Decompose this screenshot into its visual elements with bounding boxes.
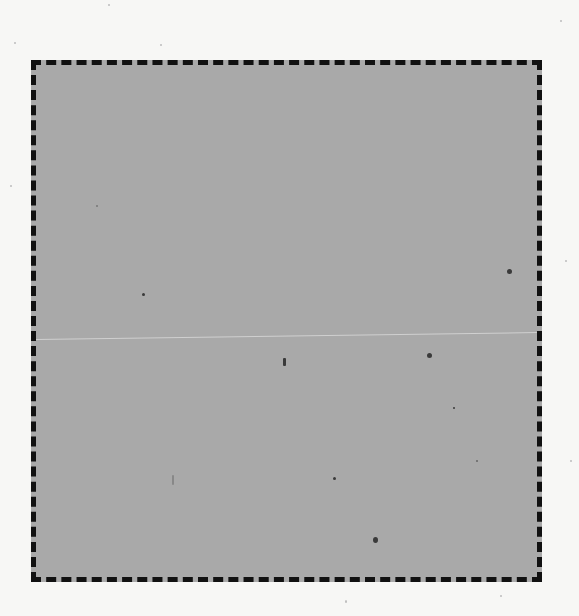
dust-speck [453, 407, 455, 409]
page-speckle [500, 595, 502, 597]
page-speckle [108, 4, 110, 6]
scan-streak [36, 332, 537, 340]
dashed-gray-box [31, 60, 542, 582]
dust-speck [373, 537, 378, 543]
page-speckle [565, 260, 567, 262]
dust-speck [427, 353, 432, 358]
page-speckle [560, 20, 562, 22]
dust-speck [333, 477, 336, 480]
page-speckle [570, 460, 572, 462]
dust-speck [172, 475, 174, 485]
page-speckle [345, 600, 347, 603]
dust-speck [476, 460, 478, 462]
dust-speck [142, 293, 145, 296]
page-speckle [10, 185, 12, 187]
dust-speck [283, 358, 286, 366]
dust-speck [96, 205, 98, 207]
page-speckle [160, 44, 162, 46]
page-speckle [14, 42, 16, 44]
dust-speck [507, 269, 512, 274]
